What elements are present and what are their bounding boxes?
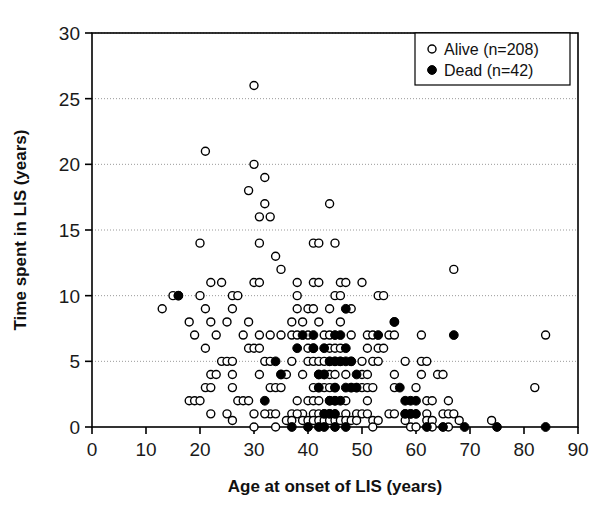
- scatter-plot-canvas: 0102030405060708090 051015202530 Age at …: [0, 0, 612, 515]
- data-point-dead: [422, 423, 431, 432]
- data-point-alive: [293, 397, 301, 405]
- data-point-alive: [207, 279, 215, 287]
- data-point-alive: [299, 318, 307, 326]
- data-point-alive: [342, 370, 350, 378]
- x-tick-label: 30: [243, 439, 264, 460]
- data-point-alive: [191, 331, 199, 339]
- data-point-alive: [255, 344, 263, 352]
- data-point-alive: [353, 416, 361, 424]
- data-point-alive: [158, 305, 166, 313]
- data-point-dead: [439, 423, 448, 432]
- data-point-dead: [412, 396, 421, 405]
- y-axis-ticks: [85, 33, 92, 427]
- data-point-alive: [347, 331, 355, 339]
- data-point-alive: [277, 384, 285, 392]
- data-point-alive: [250, 410, 258, 418]
- data-point-dead: [541, 423, 550, 432]
- data-point-alive: [342, 279, 350, 287]
- data-point-dead: [309, 331, 318, 340]
- x-axis-title: Age at onset of LIS (years): [228, 477, 442, 496]
- data-point-alive: [450, 265, 458, 273]
- x-tick-label: 50: [351, 439, 372, 460]
- y-tick-label: 15: [59, 220, 80, 241]
- data-point-alive: [293, 292, 301, 300]
- data-point-alive: [299, 370, 307, 378]
- data-point-alive: [250, 160, 258, 168]
- x-tick-label: 20: [189, 439, 210, 460]
- data-point-alive: [358, 357, 366, 365]
- data-point-alive: [201, 344, 209, 352]
- data-point-dead: [493, 423, 502, 432]
- data-point-alive: [272, 423, 280, 431]
- legend-marker-dead-icon: [428, 66, 437, 75]
- data-point-alive: [228, 416, 236, 424]
- data-point-alive: [228, 370, 236, 378]
- data-point-alive: [288, 318, 296, 326]
- data-point-alive: [196, 239, 204, 247]
- data-point-alive: [261, 173, 269, 181]
- data-point-dead: [352, 383, 361, 392]
- data-point-alive: [331, 239, 339, 247]
- data-point-alive: [363, 344, 371, 352]
- data-point-dead: [336, 396, 345, 405]
- data-point-alive: [223, 318, 231, 326]
- x-tick-label: 40: [297, 439, 318, 460]
- x-tick-label: 70: [459, 439, 480, 460]
- data-point-dead: [336, 331, 345, 340]
- data-point-alive: [255, 279, 263, 287]
- data-point-alive: [266, 331, 274, 339]
- data-point-alive: [309, 305, 317, 313]
- data-point-dead: [277, 370, 286, 379]
- data-point-alive: [250, 423, 258, 431]
- data-point-dead: [449, 331, 458, 340]
- data-point-alive: [315, 397, 323, 405]
- data-point-alive: [261, 200, 269, 208]
- data-point-dead: [314, 383, 323, 392]
- data-point-alive: [261, 410, 269, 418]
- data-point-alive: [542, 331, 550, 339]
- data-point-alive: [218, 279, 226, 287]
- data-point-dead: [412, 409, 421, 418]
- y-tick-label: 20: [59, 154, 80, 175]
- data-point-alive: [201, 305, 209, 313]
- y-axis-title: Time spent in LIS (years): [11, 130, 30, 331]
- x-tick-label: 60: [405, 439, 426, 460]
- data-point-dead: [352, 370, 361, 379]
- data-point-dead: [304, 423, 313, 432]
- y-tick-label: 25: [59, 89, 80, 110]
- data-point-dead: [460, 423, 469, 432]
- x-tick-label: 80: [513, 439, 534, 460]
- data-point-alive: [363, 370, 371, 378]
- data-point-alive: [228, 357, 236, 365]
- legend: Alive (n=208) Dead (n=42): [415, 33, 570, 85]
- data-point-alive: [277, 331, 285, 339]
- data-point-alive: [336, 318, 344, 326]
- data-point-alive: [277, 265, 285, 273]
- series-alive-points: [158, 82, 549, 431]
- data-point-dead: [374, 331, 383, 340]
- x-tick-label: 0: [87, 439, 98, 460]
- y-tick-label: 5: [69, 351, 80, 372]
- data-point-dead: [341, 304, 350, 313]
- y-tick-label: 30: [59, 23, 80, 44]
- x-axis-tick-labels: 0102030405060708090: [87, 439, 589, 460]
- data-point-alive: [255, 370, 263, 378]
- y-tick-label: 0: [69, 417, 80, 438]
- data-point-alive: [250, 82, 258, 90]
- data-point-alive: [380, 344, 388, 352]
- data-point-dead: [298, 331, 307, 340]
- data-point-alive: [272, 410, 280, 418]
- legend-label-dead: Dead (n=42): [444, 62, 533, 79]
- legend-label-alive: Alive (n=208): [444, 41, 539, 58]
- data-point-dead: [331, 409, 340, 418]
- data-point-alive: [255, 331, 263, 339]
- data-point-alive: [401, 357, 409, 365]
- data-point-dead: [293, 344, 302, 353]
- data-point-alive: [239, 331, 247, 339]
- data-point-alive: [374, 357, 382, 365]
- data-point-dead: [395, 383, 404, 392]
- data-point-alive: [358, 279, 366, 287]
- y-axis-tick-labels: 051015202530: [59, 23, 80, 438]
- data-point-alive: [293, 305, 301, 313]
- data-point-alive: [288, 357, 296, 365]
